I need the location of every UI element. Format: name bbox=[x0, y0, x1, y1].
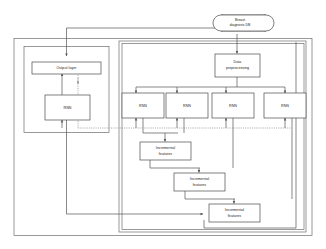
incremental-features-1: Incremental features bbox=[140, 142, 191, 160]
right-module-inner-container bbox=[122, 44, 304, 230]
preprocessing-label-line2: preprocessing bbox=[226, 66, 249, 70]
rnn-2: RNN bbox=[166, 93, 208, 118]
connector-db-to-output-layer bbox=[67, 28, 222, 56]
rnn-1-label: RNN bbox=[139, 104, 147, 108]
if-2-label-line2: features bbox=[193, 183, 207, 187]
diagram-root: Breast diagnosis DB Data preprocessing O… bbox=[0, 0, 326, 249]
diagram-canvas: Breast diagnosis DB Data preprocessing O… bbox=[0, 0, 326, 249]
if-1-label-line1: Incremental bbox=[156, 146, 175, 150]
incremental-features-3: Incremental features bbox=[209, 204, 260, 222]
if-3-label-line2: features bbox=[228, 214, 242, 218]
connector-output-rnn-to-if-3 bbox=[67, 120, 204, 214]
connector-if-1-to-if-2 bbox=[150, 160, 200, 168]
rnn-3-label: RNN bbox=[229, 104, 237, 108]
output-rnn: RNN bbox=[45, 95, 90, 120]
connector-rnn-1-to-if-1 bbox=[143, 117, 178, 133]
rnn-3: RNN bbox=[212, 93, 254, 118]
rnn-4-label: RNN bbox=[281, 104, 289, 108]
db-label-line2: diagnosis DB bbox=[230, 23, 251, 27]
rnn-1: RNN bbox=[122, 93, 164, 118]
output-layer: Output layer bbox=[32, 62, 101, 74]
rnn-2-label: RNN bbox=[183, 104, 191, 108]
if-1-label-line2: features bbox=[159, 152, 173, 156]
if-2-label-line1: Incremental bbox=[190, 177, 209, 181]
output-rnn-label: RNN bbox=[64, 106, 72, 110]
preprocessing-label-line1: Data bbox=[234, 60, 242, 64]
data-preprocessing: Data preprocessing bbox=[215, 54, 260, 77]
rnn-4: RNN bbox=[264, 93, 306, 118]
connector-if-2-to-if-3 bbox=[185, 191, 235, 199]
incremental-features-2: Incremental features bbox=[174, 173, 225, 191]
if-3-label-line1: Incremental bbox=[225, 208, 244, 212]
output-layer-label: Output layer bbox=[56, 66, 77, 70]
db-label-line1: Breast bbox=[235, 18, 245, 22]
breast-diagnosis-db: Breast diagnosis DB bbox=[213, 15, 274, 31]
right-module-container bbox=[119, 41, 306, 232]
